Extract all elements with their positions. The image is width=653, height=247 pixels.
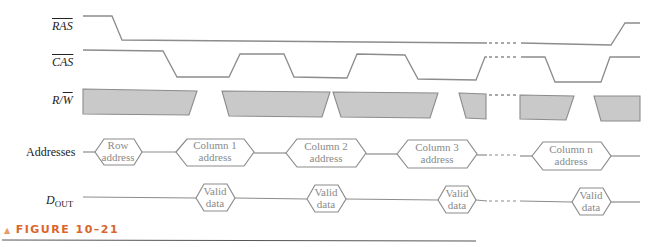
col3-address-line1: Column 3 [415,141,459,153]
ras-waveform [83,16,487,43]
valid-data-1-line1: Valid [203,185,227,197]
col2-address-line2: address [310,152,343,164]
row-address-line1: Row [108,139,129,151]
col1-address-line1: Column 1 [193,139,237,151]
coln-address-line2: address [555,155,588,167]
rw-block-5 [520,95,574,120]
dout-bus-line [83,197,196,198]
valid-data-3-line2: data [448,199,466,211]
coln-address-line1: Column n [549,143,593,155]
col1-address-line2: address [199,151,232,163]
rw-block-2 [222,91,330,117]
valid-data-2-line1: Valid [314,186,338,198]
caption-rule [2,240,476,241]
rw-block-3 [333,92,438,118]
dout-bus-line [520,201,572,202]
col3-address-line2: address [421,153,454,165]
ras-waveform-end [521,23,640,45]
dout-bus-line [476,200,487,201]
valid-data-2-line2: data [317,198,335,210]
dout-bus-line [235,198,307,199]
figure-caption: ▲FIGURE 10–21 [4,223,119,236]
cas-waveform [83,50,487,80]
valid-data-3-line1: Valid [445,187,469,199]
timing-diagram: Row address Column 1 address Column 2 ad… [0,0,653,247]
valid-data-n-line1: Valid [579,189,603,201]
cas-waveform-end [521,57,640,82]
row-address-line2: address [102,151,135,163]
valid-data-1-line2: data [206,197,224,209]
rw-block-6 [594,96,640,121]
triangle-up-icon: ▲ [4,226,12,235]
rw-block-4 [459,93,486,119]
col2-address-line1: Column 2 [304,140,348,152]
dout-bus-line [346,199,438,200]
valid-data-n-line2: data [582,201,600,213]
caption-text: FIGURE 10–21 [16,223,120,236]
rw-block-1 [83,89,197,115]
